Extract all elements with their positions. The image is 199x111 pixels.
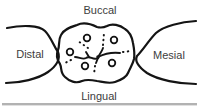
cusp-tip-circle	[67, 49, 74, 56]
cusp-tip-circle	[84, 35, 91, 42]
label-lingual: Lingual	[69, 90, 129, 103]
label-buccal: Buccal	[70, 4, 130, 17]
dotted-groove-lingual	[94, 66, 95, 74]
cusp-tip-circle	[109, 60, 116, 67]
dotted-groove-buccal	[103, 33, 104, 45]
dental-occlusal-diagram: Buccal Distal Mesial Lingual	[0, 0, 199, 111]
cusp-tip-circle	[82, 63, 89, 70]
central-pit	[96, 55, 100, 59]
cusp-tip-circles	[67, 35, 118, 70]
label-mesial: Mesial	[145, 49, 193, 62]
cusp-tip-circle	[111, 37, 118, 44]
bottom-divider-rule	[2, 103, 197, 105]
dotted-groove-mesial	[123, 51, 131, 52]
fissure-groove-left	[75, 57, 98, 59]
dotted-groove-lower-left	[63, 60, 71, 64]
label-distal: Distal	[6, 48, 54, 61]
fissure-groove-spur	[86, 52, 89, 57]
